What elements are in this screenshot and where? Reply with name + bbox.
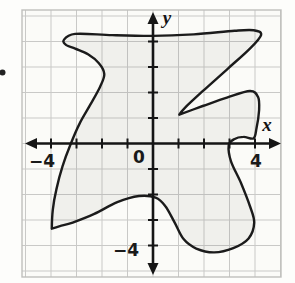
x-axis-label-neg4: −4 bbox=[26, 152, 58, 171]
y-axis-letter: y bbox=[157, 8, 177, 28]
x-axis-label-pos4: 4 bbox=[247, 152, 265, 171]
cropped-list-marker-dot bbox=[0, 70, 6, 76]
x-axis-letter: x bbox=[257, 115, 277, 135]
origin-label: 0 bbox=[130, 148, 148, 167]
y-axis-label-neg4: −4 bbox=[110, 241, 142, 260]
textbook-graph-figure: −4 0 4 −4 x y bbox=[0, 0, 295, 283]
graph-canvas bbox=[0, 0, 295, 283]
